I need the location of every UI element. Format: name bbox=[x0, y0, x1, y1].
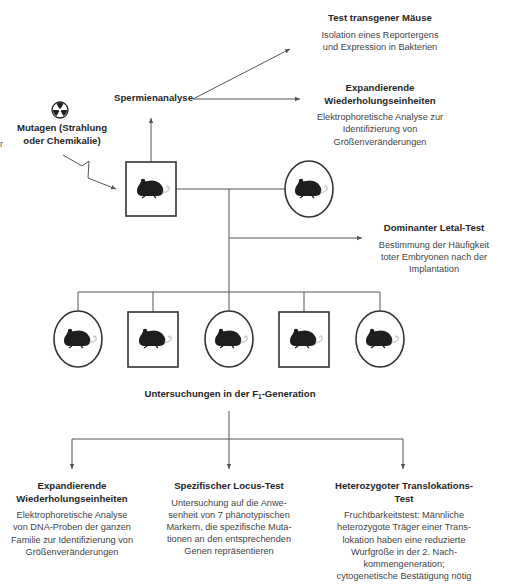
mutagen-label: Mutagen (Strahlung oder Chemikalie) bbox=[10, 122, 114, 147]
cropped-text-fragment: r bbox=[0, 139, 3, 149]
arrow-to-transgenic-test bbox=[193, 49, 290, 99]
radiation-icon bbox=[52, 102, 68, 118]
transgenic-mouse-test: Test transgener Mäuse Isolation eines Re… bbox=[290, 12, 470, 53]
expanding-repeat-units-bottom: Expandierende Wiederholungseinheiten Ele… bbox=[2, 480, 142, 558]
offspring-1-female bbox=[54, 311, 102, 367]
offspring-2-male bbox=[128, 312, 178, 367]
heterozygous-translocation-test: Heterozygoter Translokations- Test Fruch… bbox=[326, 480, 482, 582]
offspring-3-female bbox=[205, 311, 253, 367]
mutagen-zigzag-arrow bbox=[63, 155, 116, 189]
parent-female bbox=[285, 161, 333, 217]
offspring-5-female bbox=[356, 311, 404, 367]
sperm-analysis-label: Spermienanalyse bbox=[100, 92, 193, 105]
dominant-lethal-test: Dominanter Letal-Test Bestimmung der Häu… bbox=[364, 222, 504, 275]
offspring-4-male bbox=[279, 312, 329, 367]
parent-male bbox=[126, 162, 176, 216]
f1-generation-label: Untersuchungen in der F1-Generation bbox=[120, 388, 340, 404]
expanding-repeat-units-top: Expandierende Wiederholungseinheiten Ele… bbox=[290, 82, 470, 148]
specific-locus-test: Spezifischer Locus-Test Untersuchung auf… bbox=[159, 480, 299, 558]
